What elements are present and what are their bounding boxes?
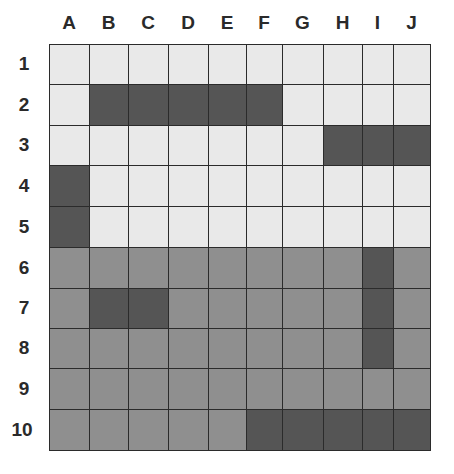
grid-cell-e2 — [208, 84, 247, 126]
row-label-3: 3 — [4, 134, 44, 156]
column-label-h: H — [323, 12, 363, 34]
grid-cell-c8 — [128, 328, 169, 369]
grid-cell-b8 — [89, 328, 129, 369]
grid-cell-d3 — [168, 125, 209, 166]
grid-cell-d9 — [168, 368, 209, 410]
grid-cell-a6 — [49, 247, 90, 289]
grid-cell-j3 — [393, 125, 431, 166]
grid-cell-e5 — [208, 206, 247, 248]
grid-cell-b3 — [89, 125, 129, 166]
grid-cell-i4 — [362, 165, 394, 207]
grid-cell-f2 — [246, 84, 283, 126]
grid-cell-c5 — [128, 206, 169, 248]
grid-cell-a8 — [49, 328, 90, 369]
grid-cell-j9 — [393, 368, 431, 410]
grid-cell-a5 — [49, 206, 90, 248]
grid-cell-j4 — [393, 165, 431, 207]
row-label-10: 10 — [2, 419, 42, 441]
grid-cell-i10 — [362, 409, 394, 451]
column-label-g: G — [283, 12, 323, 34]
grid-cell-i7 — [362, 288, 394, 329]
grid-cell-c4 — [128, 165, 169, 207]
grid-cell-b7 — [89, 288, 129, 329]
row-label-8: 8 — [4, 337, 44, 359]
grid-cell-h1 — [323, 44, 363, 85]
grid-cell-e8 — [208, 328, 247, 369]
grid-cell-j7 — [393, 288, 431, 329]
column-label-a: A — [49, 12, 89, 34]
grid-cell-g6 — [282, 247, 324, 289]
grid-cell-e10 — [208, 409, 247, 451]
grid-cell-b2 — [89, 84, 129, 126]
grid-cell-b5 — [89, 206, 129, 248]
grid-cell-h2 — [323, 84, 363, 126]
grid-cell-d8 — [168, 328, 209, 369]
row-label-2: 2 — [4, 94, 44, 116]
grid-cell-e6 — [208, 247, 247, 289]
grid-cell-a3 — [49, 125, 90, 166]
grid-cell-f8 — [246, 328, 283, 369]
grid-cell-b9 — [89, 368, 129, 410]
grid-cell-c2 — [128, 84, 169, 126]
column-label-d: D — [168, 12, 208, 34]
row-label-1: 1 — [4, 53, 44, 75]
grid-cell-f10 — [246, 409, 283, 451]
grid-cell-f6 — [246, 247, 283, 289]
grid-cell-c9 — [128, 368, 169, 410]
grid-cell-d1 — [168, 44, 209, 85]
row-label-4: 4 — [4, 175, 44, 197]
grid-cell-g4 — [282, 165, 324, 207]
grid-cell-f7 — [246, 288, 283, 329]
row-label-5: 5 — [4, 216, 44, 238]
grid-cell-f1 — [246, 44, 283, 85]
grid-cell-d5 — [168, 206, 209, 248]
grid-cell-g7 — [282, 288, 324, 329]
grid-cell-e4 — [208, 165, 247, 207]
grid-cell-e7 — [208, 288, 247, 329]
column-label-b: B — [89, 12, 129, 34]
grid-cell-c1 — [128, 44, 169, 85]
grid-cell-h6 — [323, 247, 363, 289]
grid-cell-j1 — [393, 44, 431, 85]
grid-cell-h8 — [323, 328, 363, 369]
grid-cell-g10 — [282, 409, 324, 451]
grid-cell-f4 — [246, 165, 283, 207]
grid-cell-h9 — [323, 368, 363, 410]
grid-cell-i8 — [362, 328, 394, 369]
grid-cell-h4 — [323, 165, 363, 207]
grid-cell-d4 — [168, 165, 209, 207]
grid-cell-b1 — [89, 44, 129, 85]
grid-cell-j10 — [393, 409, 431, 451]
grid-cell-j5 — [393, 206, 431, 248]
grid-cell-d6 — [168, 247, 209, 289]
grid-cell-d10 — [168, 409, 209, 451]
grid-cell-e3 — [208, 125, 247, 166]
grid-cell-c3 — [128, 125, 169, 166]
grid-cell-a7 — [49, 288, 90, 329]
column-label-e: E — [207, 12, 247, 34]
grid-cell-c6 — [128, 247, 169, 289]
grid-cell-c10 — [128, 409, 169, 451]
grid-cell-h7 — [323, 288, 363, 329]
grid-cell-i3 — [362, 125, 394, 166]
grid-cell-j6 — [393, 247, 431, 289]
grid-cell-g8 — [282, 328, 324, 369]
grid-cell-i5 — [362, 206, 394, 248]
grid-cell-b10 — [89, 409, 129, 451]
row-label-9: 9 — [4, 378, 44, 400]
grid-cell-g3 — [282, 125, 324, 166]
grid-cell-e1 — [208, 44, 247, 85]
grid-cell-g1 — [282, 44, 324, 85]
grid-cell-a1 — [49, 44, 90, 85]
grid-cell-f3 — [246, 125, 283, 166]
grid-cell-f9 — [246, 368, 283, 410]
grid-cell-e9 — [208, 368, 247, 410]
column-label-j: J — [392, 12, 432, 34]
grid-cell-a10 — [49, 409, 90, 451]
grid-cell-h3 — [323, 125, 363, 166]
grid-cell-a9 — [49, 368, 90, 410]
grid-cell-g5 — [282, 206, 324, 248]
grid-cell-j2 — [393, 84, 431, 126]
grid-cell-g2 — [282, 84, 324, 126]
grid-cell-h5 — [323, 206, 363, 248]
